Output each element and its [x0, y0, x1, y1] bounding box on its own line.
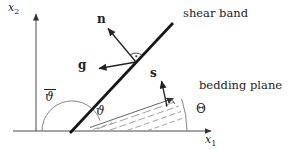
n-vector-arrow: [108, 29, 136, 63]
shear-band-diagram: x2 x1 shear band bedding plane n g s ϑ ϑ…: [0, 0, 289, 150]
bedding-plane-hatching: [93, 102, 184, 131]
Theta-angle-arc: [182, 99, 187, 131]
g-vector-label: g: [78, 59, 86, 71]
right-angle-dot-s: [168, 101, 170, 103]
Theta-angle-label: Θ: [196, 103, 206, 115]
n-vector-label: n: [97, 13, 106, 25]
right-angle-dot-n: [135, 55, 137, 57]
diagram-canvas: [0, 0, 289, 150]
theta-angle-arc: [42, 101, 100, 131]
right-angle-marker-n: [130, 53, 142, 55]
shear-band-label: shear band: [183, 8, 248, 20]
s-vector-label: s: [150, 67, 157, 79]
x2-axis-label: x2: [8, 2, 19, 16]
theta-bar-angle-label: ϑ: [44, 89, 56, 103]
bedding-plane-label: bedding plane: [199, 80, 282, 92]
x1-axis-label: x1: [205, 134, 216, 148]
theta-angle-label: ϑ: [96, 105, 105, 117]
